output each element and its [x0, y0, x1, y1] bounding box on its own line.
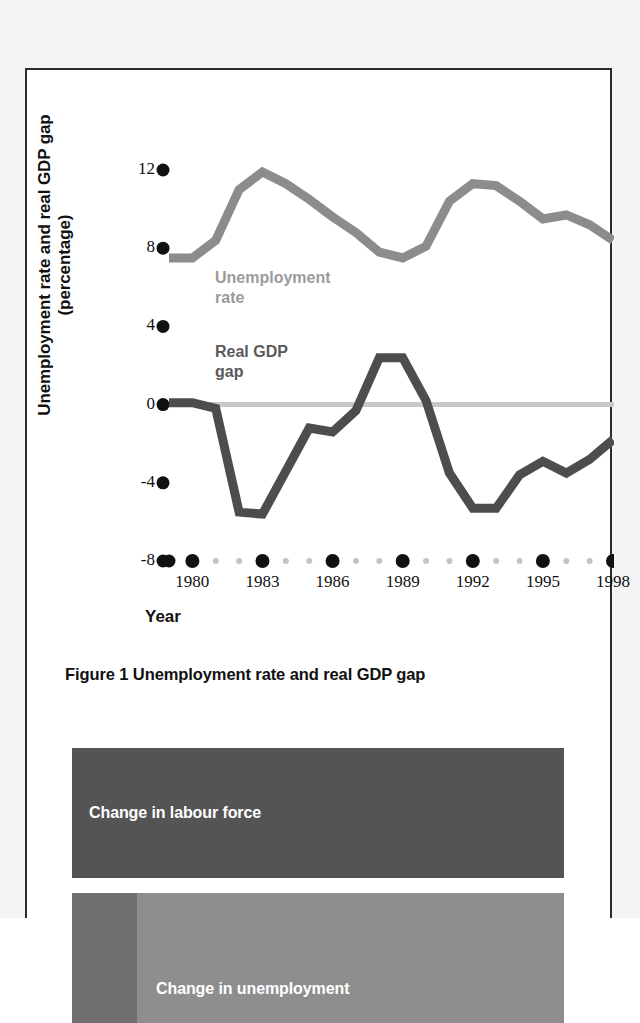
x-tick-label: 1989 — [368, 572, 438, 592]
figure-block: Unemployment rate and real GDP gap (perc… — [27, 70, 614, 630]
y-tick-label: 0 — [123, 394, 155, 414]
x-axis-title: Year — [145, 607, 181, 627]
x-tick-label: 1986 — [298, 572, 368, 592]
figure-caption: Figure 1 Unemployment rate and real GDP … — [65, 665, 425, 684]
x-tick-label: 1998 — [578, 572, 640, 592]
y-axis-tick-dots — [157, 164, 170, 568]
y-tick-label: 12 — [123, 159, 155, 179]
y-tick-label: -8 — [123, 550, 155, 570]
y-axis-title: Unemployment rate and real GDP gap (perc… — [35, 100, 75, 430]
x-tick-label: 1995 — [508, 572, 578, 592]
chart-plot-area: Unemployment rate and real GDP gap (perc… — [27, 70, 614, 590]
y-tick-label: 4 — [123, 315, 155, 335]
bar-change-in-labour-force: Change in labour force — [72, 748, 564, 878]
bar-label-change-in-labour-force: Change in labour force — [89, 804, 261, 822]
chart-svg — [27, 70, 614, 590]
y-tick-label: 8 — [123, 237, 155, 257]
series-label-real-gdp-gap: Real GDP gap — [215, 342, 288, 381]
bar-segment-left-stub — [72, 893, 137, 1023]
x-tick-label: 1983 — [227, 572, 297, 592]
bars-block: Change in labour force Change in unemplo… — [27, 730, 614, 920]
x-tick-label: 1992 — [438, 572, 508, 592]
content-panel: Unemployment rate and real GDP gap (perc… — [25, 68, 612, 918]
bar-change-in-unemployment: Change in unemployment — [72, 893, 564, 1023]
x-axis-major-tick-dots — [163, 554, 615, 568]
x-tick-label: 1980 — [157, 572, 227, 592]
bar-label-change-in-unemployment: Change in unemployment — [156, 980, 349, 998]
y-tick-label: -4 — [123, 472, 155, 492]
series-label-unemployment-rate: Unemployment rate — [215, 268, 331, 307]
